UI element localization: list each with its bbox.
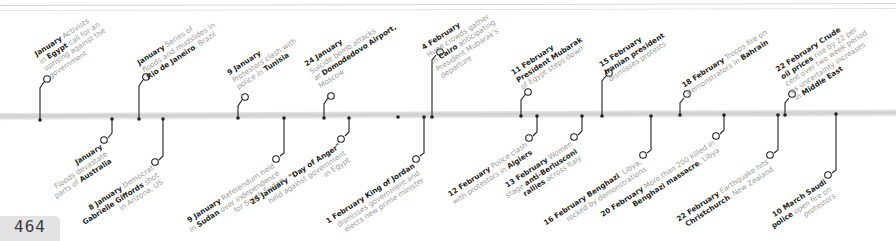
page-number: 464 [14,217,46,236]
